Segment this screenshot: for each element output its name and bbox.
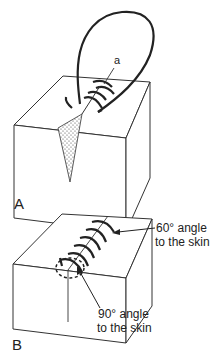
annotation-90-line2: to the skin bbox=[97, 321, 152, 335]
annotation-60-line2: to the skin bbox=[155, 235, 210, 249]
panel-a: a A bbox=[14, 12, 154, 232]
panel-b: 60° angle to the skin 90° angle to the s… bbox=[12, 214, 210, 353]
callout-label-a: a bbox=[114, 54, 121, 66]
skin-block-a bbox=[14, 76, 150, 232]
panel-label-b: B bbox=[12, 336, 22, 353]
suture-diagram: a A 60° angle bbox=[0, 0, 221, 357]
annotation-60-line1: 60° angle bbox=[156, 221, 207, 235]
panel-label-a: A bbox=[14, 195, 24, 212]
annotation-90-line1: 90° angle bbox=[98, 307, 149, 321]
